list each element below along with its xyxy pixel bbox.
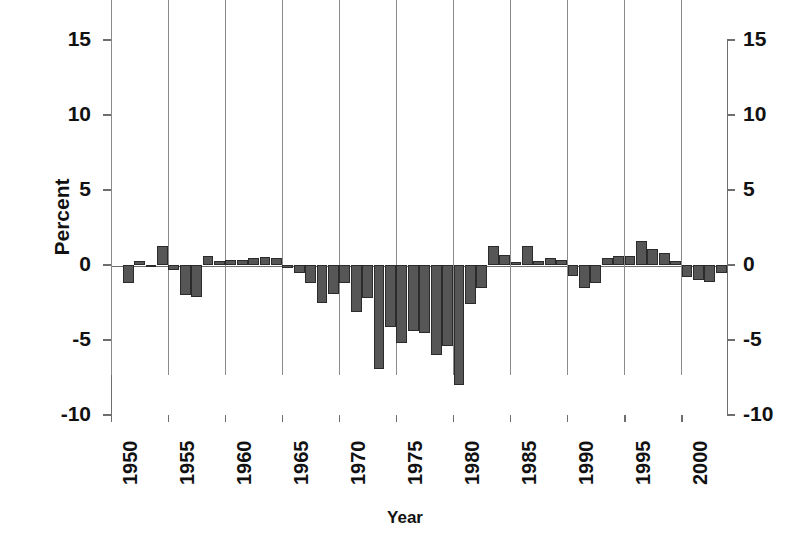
x-tick-1985	[510, 415, 511, 422]
y-tick-right-15	[727, 39, 735, 40]
gridline-1970	[339, 0, 340, 375]
bar-1984	[499, 255, 510, 266]
bar-1996	[636, 241, 647, 265]
bar-1990	[568, 265, 579, 276]
bar-1998	[659, 253, 670, 265]
gridline-1960	[225, 0, 226, 375]
x-axis-title: Year	[0, 508, 810, 528]
bar-1987	[533, 261, 544, 266]
bar-1962	[248, 258, 259, 265]
x-tick-label-1990: 1990	[575, 441, 598, 486]
gridline-2000	[681, 0, 682, 375]
bar-2003	[716, 265, 727, 273]
bar-1977	[419, 265, 430, 333]
y-tick-label-right--10: -10	[743, 402, 803, 426]
y-tick-label-right-10: 10	[743, 102, 803, 126]
y-tick-5	[103, 189, 111, 190]
bar-1966	[294, 265, 305, 273]
x-tick-1995	[624, 415, 625, 422]
y-tick-right-10	[727, 114, 735, 115]
bar-1964	[271, 258, 282, 265]
y-tick-label-10: 10	[33, 102, 91, 126]
bar-1985	[511, 262, 522, 265]
x-tick-1970	[339, 415, 340, 422]
bar-1995	[625, 256, 636, 265]
bar-1968	[317, 265, 328, 303]
y-tick-label--5: -5	[33, 327, 91, 351]
x-tick-label-1985: 1985	[518, 441, 541, 486]
bar-chart-figure: Percent 151050-5-10 151050-5-10 19501955…	[0, 0, 810, 549]
bar-1952	[134, 261, 145, 266]
bar-1993	[602, 258, 613, 266]
bar-1959	[214, 261, 225, 265]
bar-1994	[613, 256, 624, 265]
bar-1999	[670, 261, 681, 265]
bar-1991	[579, 265, 590, 288]
x-tick-label-2000: 2000	[689, 441, 712, 486]
bar-1989	[556, 260, 567, 265]
bar-1969	[328, 265, 339, 294]
bar-2001	[693, 265, 704, 280]
bar-1981	[465, 265, 476, 304]
gridline-1950	[111, 0, 112, 375]
bar-1988	[545, 258, 556, 266]
x-tick-label-1975: 1975	[404, 441, 427, 486]
bar-2000	[682, 265, 693, 277]
bar-1971	[351, 265, 362, 312]
bar-1956	[180, 265, 191, 295]
bar-1953	[146, 265, 157, 267]
bar-1965	[282, 265, 293, 268]
x-tick-1950	[111, 415, 112, 422]
gridline-1990	[567, 0, 568, 375]
bar-1978	[431, 265, 442, 355]
y-tick-label-15: 15	[33, 27, 91, 51]
y-tick-label-0: 0	[33, 252, 91, 276]
x-tick-1975	[396, 415, 397, 422]
bar-1983	[488, 246, 499, 266]
bar-1963	[260, 257, 271, 265]
y-tick-right-0	[727, 264, 735, 265]
y-tick-label-right-5: 5	[743, 177, 803, 201]
bar-1958	[203, 256, 214, 265]
y-tick-label--10: -10	[33, 402, 91, 426]
x-tick-1960	[225, 415, 226, 422]
bar-1997	[647, 249, 658, 266]
y-tick-right--5	[727, 339, 735, 340]
y-tick-label-5: 5	[33, 177, 91, 201]
x-tick-label-1960: 1960	[233, 441, 256, 486]
x-tick-label-1965: 1965	[290, 441, 313, 486]
x-tick-label-1955: 1955	[176, 441, 199, 486]
bar-1982	[476, 265, 487, 288]
bar-1970	[339, 265, 350, 283]
bar-2002	[704, 265, 715, 282]
x-tick-1990	[567, 415, 568, 422]
bar-1967	[305, 265, 316, 283]
x-tick-1965	[282, 415, 283, 422]
bar-1951	[123, 265, 134, 283]
bar-1976	[408, 265, 419, 331]
y-tick--10	[103, 414, 111, 415]
bar-1960	[225, 260, 236, 265]
bar-1972	[362, 265, 373, 298]
bar-1961	[237, 260, 248, 265]
bar-1979	[442, 265, 453, 346]
y-tick-15	[103, 39, 111, 40]
bar-1955	[168, 265, 179, 270]
x-tick-label-1950: 1950	[119, 441, 142, 486]
x-tick-label-1980: 1980	[461, 441, 484, 486]
bar-1975	[396, 265, 407, 343]
y-tick--5	[103, 339, 111, 340]
y-tick-label-right--5: -5	[743, 327, 803, 351]
bar-1974	[385, 265, 396, 327]
x-tick-1955	[168, 415, 169, 422]
x-tick-2000	[681, 415, 682, 422]
bar-1973	[374, 265, 385, 369]
bar-1980	[454, 265, 465, 385]
bar-1992	[590, 265, 601, 283]
y-tick-right-5	[727, 189, 735, 190]
x-tick-1980	[453, 415, 454, 422]
bar-1986	[522, 246, 533, 266]
y-tick-right--10	[727, 414, 735, 415]
gridline-1995	[624, 0, 625, 375]
x-tick-label-1995: 1995	[632, 441, 655, 486]
